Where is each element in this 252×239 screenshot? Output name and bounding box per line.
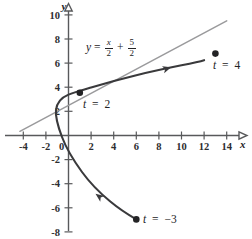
equation-plus: + bbox=[117, 42, 124, 54]
equation-equals: = bbox=[94, 42, 101, 54]
label-t-4-val: 4 bbox=[234, 59, 240, 71]
x-tick-label-10: 10 bbox=[176, 141, 187, 152]
label-t-equals-2: t = 2 bbox=[83, 98, 110, 110]
plot-canvas: -4 -2 0 2 4 6 8 10 12 14 10 8 6 4 2 -2 -… bbox=[0, 0, 252, 239]
x-tick-label-14: 14 bbox=[221, 141, 232, 152]
label-t-equals-neg3: t = −3 bbox=[143, 213, 177, 225]
parametric-curve bbox=[56, 60, 204, 219]
y-tick-label-10: 10 bbox=[50, 10, 61, 21]
x-tick-label--4: -4 bbox=[19, 141, 28, 152]
parametric-curve-figure: -4 -2 0 2 4 6 8 10 12 14 10 8 6 4 2 -2 -… bbox=[0, 0, 252, 239]
label-t-2-eq: = bbox=[92, 98, 99, 110]
x-axis-label: x bbox=[239, 138, 246, 150]
label-t-2-val: 2 bbox=[104, 98, 110, 110]
tangent-equation-annotation: y = x 2 + 5 2 bbox=[86, 38, 137, 58]
y-tick-label-8: 8 bbox=[55, 34, 60, 45]
x-tick-label-6: 6 bbox=[134, 141, 139, 152]
equation-frac2-denominator: 2 bbox=[128, 49, 137, 59]
label-t-2-var: t bbox=[83, 98, 87, 110]
y-tick-label--2: -2 bbox=[51, 154, 60, 165]
y-tick-label-4: 4 bbox=[55, 82, 61, 93]
direction-arrows-group bbox=[93, 64, 172, 202]
label-t-neg3-val: −3 bbox=[164, 213, 176, 225]
y-tick-label--8: -8 bbox=[51, 227, 60, 238]
y-axis-label: y bbox=[60, 0, 67, 12]
label-t-4-var: t bbox=[213, 59, 217, 71]
equation-frac1-denominator: 2 bbox=[105, 49, 114, 59]
y-tick-labels: 10 8 6 4 2 -2 -4 -6 -8 bbox=[50, 10, 61, 238]
equation-fraction-5-over-2: 5 2 bbox=[128, 38, 137, 58]
y-tick-label-6: 6 bbox=[55, 58, 60, 69]
point-dot-t--3 bbox=[133, 216, 140, 223]
x-tick-label-2: 2 bbox=[88, 141, 93, 152]
label-t-equals-4: t = 4 bbox=[213, 59, 240, 71]
point-dot-t-4 bbox=[212, 50, 219, 57]
label-t-4-eq: = bbox=[222, 59, 229, 71]
x-tick-label-4: 4 bbox=[111, 141, 117, 152]
y-tick-label--4: -4 bbox=[51, 178, 60, 189]
equation-lhs: y bbox=[86, 42, 91, 54]
point-dot-t-2 bbox=[77, 89, 84, 96]
x-tick-labels: -4 -2 0 2 4 6 8 10 12 14 bbox=[19, 141, 233, 152]
equation-fraction-x-over-2: x 2 bbox=[105, 38, 114, 58]
y-tick-label--6: -6 bbox=[51, 203, 60, 214]
label-t-neg3-eq: = bbox=[152, 213, 159, 225]
x-tick-label-12: 12 bbox=[199, 141, 210, 152]
x-tick-label-8: 8 bbox=[156, 141, 161, 152]
x-tick-label--2: -2 bbox=[42, 141, 51, 152]
label-t-neg3-var: t bbox=[143, 213, 147, 225]
